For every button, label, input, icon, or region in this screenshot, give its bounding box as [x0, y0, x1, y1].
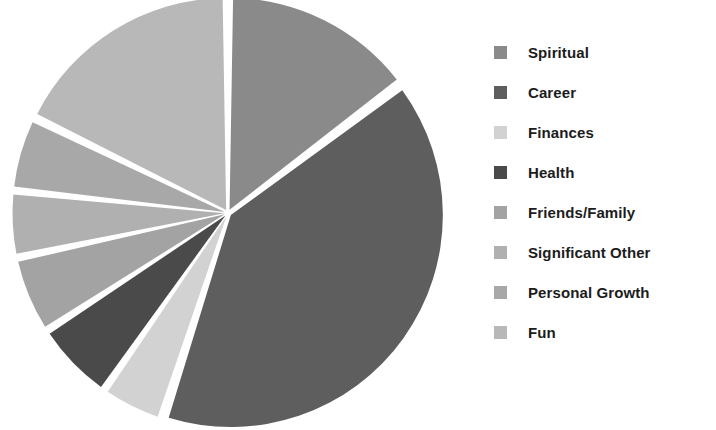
- pie-chart-figure: SpiritualCareerFinancesHealthFriends/Fam…: [0, 0, 716, 430]
- legend-swatch-health: [494, 166, 507, 179]
- legend-item[interactable]: Finances: [494, 112, 712, 152]
- legend-item[interactable]: Spiritual: [494, 32, 712, 72]
- chart-legend: SpiritualCareerFinancesHealthFriends/Fam…: [494, 32, 712, 352]
- legend-swatch-fun: [494, 326, 507, 339]
- legend-item-label: Fun: [528, 325, 556, 340]
- pie-plot-area: [0, 0, 460, 430]
- legend-swatch-friends-family: [494, 206, 507, 219]
- legend-item[interactable]: Significant Other: [494, 232, 712, 272]
- legend-item-label: Friends/Family: [528, 205, 635, 220]
- legend-swatch-career: [494, 86, 507, 99]
- legend-swatch-significant-other: [494, 246, 507, 259]
- legend-item-label: Career: [528, 85, 576, 100]
- legend-item[interactable]: Personal Growth: [494, 272, 712, 312]
- legend-item-label: Personal Growth: [528, 285, 650, 300]
- legend-item[interactable]: Health: [494, 152, 712, 192]
- legend-item[interactable]: Fun: [494, 312, 712, 352]
- legend-swatch-finances: [494, 126, 507, 139]
- legend-item-label: Spiritual: [528, 45, 589, 60]
- legend-item-label: Health: [528, 165, 574, 180]
- legend-item-label: Significant Other: [528, 245, 651, 260]
- legend-swatch-spiritual: [494, 46, 507, 59]
- legend-item-label: Finances: [528, 125, 594, 140]
- pie-slice-group: [13, 0, 443, 427]
- legend-item[interactable]: Career: [494, 72, 712, 112]
- legend-swatch-personal-growth: [494, 286, 507, 299]
- legend-item[interactable]: Friends/Family: [494, 192, 712, 232]
- pie-svg: [0, 0, 460, 430]
